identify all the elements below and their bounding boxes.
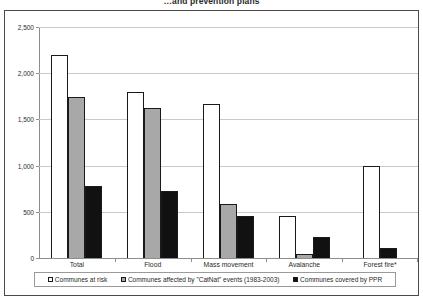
legend-label: Communes at risk	[55, 276, 107, 283]
bar[interactable]	[68, 97, 85, 258]
x-axis-category-label: Mass movement	[191, 261, 267, 268]
chart-legend: Communes at riskCommunes affected by "Ca…	[34, 272, 396, 287]
legend-label: Communes covered by PPR	[300, 276, 382, 283]
y-axis-tick-label: 2,000	[18, 70, 34, 77]
x-axis-tick	[266, 259, 267, 262]
x-axis-tick	[417, 259, 418, 262]
y-axis-tick-label: 2,500	[18, 24, 34, 31]
legend-swatch-icon	[293, 277, 298, 282]
bar[interactable]	[220, 204, 237, 258]
bar[interactable]	[203, 104, 220, 258]
bar[interactable]	[51, 55, 68, 258]
legend-swatch-icon	[121, 277, 126, 282]
plot-area: 05001,0001,5002,0002,500TotalFloodMass m…	[39, 27, 418, 259]
x-axis-line	[39, 258, 418, 259]
bar[interactable]	[237, 216, 254, 258]
y-axis-tick-label: 1,500	[18, 116, 34, 123]
bar-group-bars	[266, 27, 342, 258]
bar-group: Forest fire*	[342, 27, 418, 258]
bar[interactable]	[144, 108, 161, 258]
legend-item[interactable]: Communes at risk	[48, 276, 107, 283]
x-axis-category-label: Forest fire*	[342, 261, 418, 268]
y-axis-tick	[36, 258, 39, 259]
x-axis-category-label: Total	[39, 261, 115, 268]
chart-title: …and prevention plans	[0, 0, 423, 7]
legend-item[interactable]: Communes covered by PPR	[293, 276, 382, 283]
bar[interactable]	[279, 216, 296, 258]
bar-group-bars	[39, 27, 115, 258]
bar[interactable]	[296, 254, 313, 258]
bar[interactable]	[85, 186, 102, 258]
bar-group-bars	[115, 27, 191, 258]
legend-item[interactable]: Communes affected by "CatNat" events (19…	[121, 276, 280, 283]
chart-screenshot: …and prevention plans 05001,0001,5002,00…	[0, 0, 423, 300]
bar-group: Avalanche	[266, 27, 342, 258]
x-axis-category-label: Avalanche	[266, 261, 342, 268]
bar-group-bars	[342, 27, 418, 258]
bar-group: Total	[39, 27, 115, 258]
x-axis-category-label: Flood	[115, 261, 191, 268]
legend-swatch-icon	[48, 277, 53, 282]
legend-label: Communes affected by "CatNat" events (19…	[128, 276, 280, 283]
bar-group-bars	[191, 27, 267, 258]
bar[interactable]	[380, 248, 397, 258]
bar[interactable]	[127, 92, 144, 258]
bar[interactable]	[161, 191, 178, 258]
x-axis-tick	[191, 259, 192, 262]
bar[interactable]	[363, 166, 380, 258]
y-axis-tick-label: 0	[30, 255, 34, 262]
x-axis-tick	[115, 259, 116, 262]
y-axis-tick-label: 500	[23, 208, 34, 215]
y-axis-tick-label: 1,000	[18, 162, 34, 169]
chart-frame: 05001,0001,5002,0002,500TotalFloodMass m…	[4, 10, 419, 296]
bar-group: Flood	[115, 27, 191, 258]
bar-group: Mass movement	[191, 27, 267, 258]
bar[interactable]	[313, 237, 330, 258]
x-axis-tick	[342, 259, 343, 262]
